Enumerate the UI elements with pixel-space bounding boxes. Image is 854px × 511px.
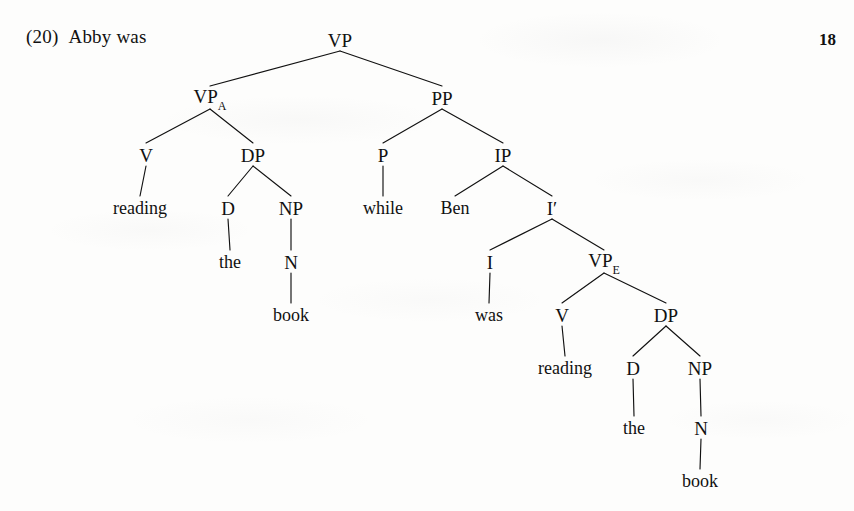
tree-node-vp-root: VP xyxy=(328,31,352,50)
tree-node-v-left: V xyxy=(139,146,153,165)
tree-node-v-right: V xyxy=(555,306,569,325)
tree-node-i: I xyxy=(487,253,493,272)
tree-node-np-right: NP xyxy=(688,359,712,378)
tree-node-label: DP xyxy=(654,305,678,326)
tree-edge-np-right-to-n-right xyxy=(700,379,701,416)
tree-node-label: VP xyxy=(328,30,352,51)
tree-node-vp-a: VPA xyxy=(194,87,227,110)
tree-node-i-bar: I′ xyxy=(547,199,557,218)
tree-node-subscript: E xyxy=(612,262,619,276)
tree-node-label: NP xyxy=(279,198,303,219)
tree-node-label: Ben xyxy=(441,198,470,218)
tree-edge-v-right-to-word-reading-2 xyxy=(562,326,565,356)
tree-node-word-reading-1: reading xyxy=(113,199,167,217)
tree-edge-dp-left-to-d-left xyxy=(228,166,253,196)
tree-node-d-right: D xyxy=(626,359,640,378)
tree-node-p: P xyxy=(378,146,389,165)
tree-node-label: PP xyxy=(431,88,452,109)
tree-node-label: reading xyxy=(113,198,167,218)
tree-edge-dp-right-to-d-right xyxy=(633,326,666,356)
syntax-tree-edges xyxy=(0,0,854,511)
tree-node-np-left: NP xyxy=(279,199,303,218)
tree-edge-n-right-to-word-book-2 xyxy=(700,439,701,469)
tree-edge-vp-e-to-v-right xyxy=(562,273,604,303)
tree-node-label: D xyxy=(626,358,640,379)
tree-node-label: V xyxy=(139,145,153,166)
tree-node-word-book-1: book xyxy=(273,306,309,324)
tree-node-label: N xyxy=(284,252,298,273)
tree-node-label: DP xyxy=(241,145,265,166)
tree-node-label: I′ xyxy=(547,198,557,219)
tree-node-pp: PP xyxy=(431,89,452,108)
tree-node-label: D xyxy=(221,198,235,219)
tree-node-n-right: N xyxy=(694,419,708,438)
document-page: (20)Abby was 18 VPVPAPPVDPPIPreadingDNPw… xyxy=(0,0,854,511)
tree-node-dp-right: DP xyxy=(654,306,678,325)
tree-edge-d-left-to-word-the-1 xyxy=(228,219,230,250)
tree-node-d-left: D xyxy=(221,199,235,218)
tree-edge-vp-a-to-dp-left xyxy=(210,109,253,143)
tree-edge-pp-to-p xyxy=(383,109,442,143)
tree-edge-vp-root-to-vp-a xyxy=(210,51,340,86)
tree-node-label: while xyxy=(363,198,403,218)
tree-node-n-left: N xyxy=(284,253,298,272)
tree-node-word-book-2: book xyxy=(682,472,718,490)
tree-node-subscript: A xyxy=(218,98,227,112)
tree-edge-d-right-to-word-the-2 xyxy=(633,379,634,416)
tree-node-ip: IP xyxy=(495,146,512,165)
tree-node-label: VP xyxy=(588,250,612,271)
tree-node-label: I xyxy=(487,252,493,273)
tree-node-label: P xyxy=(378,145,389,166)
tree-node-label: the xyxy=(219,252,241,272)
tree-edge-ip-to-i-bar xyxy=(503,166,552,196)
tree-node-label: VP xyxy=(194,86,218,107)
tree-node-label: NP xyxy=(688,358,712,379)
tree-edge-i-bar-to-i xyxy=(490,219,552,250)
tree-edge-pp-to-ip xyxy=(442,109,503,143)
tree-node-label: V xyxy=(555,305,569,326)
tree-node-label: IP xyxy=(495,145,512,166)
tree-node-label: the xyxy=(623,418,645,438)
tree-node-word-the-2: the xyxy=(623,419,645,437)
tree-edge-vp-root-to-pp xyxy=(340,51,442,86)
tree-node-word-reading-2: reading xyxy=(538,359,592,377)
tree-edge-i-bar-to-vp-e xyxy=(552,219,604,250)
tree-node-label: reading xyxy=(538,358,592,378)
tree-node-word-ben: Ben xyxy=(441,199,470,217)
tree-node-word-the-1: the xyxy=(219,253,241,271)
tree-edge-dp-right-to-np-right xyxy=(666,326,700,356)
tree-node-label: book xyxy=(682,471,718,491)
tree-edge-i-to-word-was xyxy=(489,273,490,303)
tree-node-label: N xyxy=(694,418,708,439)
tree-edge-vp-a-to-v-left xyxy=(146,109,210,143)
tree-node-label: book xyxy=(273,305,309,325)
tree-node-word-was: was xyxy=(475,306,503,324)
tree-node-label: was xyxy=(475,305,503,325)
tree-edge-ip-to-word-ben xyxy=(455,166,503,196)
tree-node-word-while: while xyxy=(363,199,403,217)
tree-node-dp-left: DP xyxy=(241,146,265,165)
tree-edge-dp-left-to-np-left xyxy=(253,166,291,196)
tree-edge-vp-e-to-dp-right xyxy=(604,273,666,303)
tree-node-vp-e: VPE xyxy=(588,251,620,274)
tree-edge-v-left-to-word-reading-1 xyxy=(140,166,146,196)
